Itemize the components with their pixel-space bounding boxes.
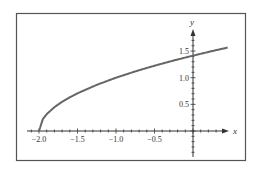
x-tick-label: −1.5 <box>70 135 85 144</box>
y-tick-label: 1.0 <box>179 74 189 83</box>
x-tick-label: −0.5 <box>147 135 162 144</box>
x-tick-label: −2.0 <box>32 135 47 144</box>
x-tick-label: −1.0 <box>109 135 124 144</box>
y-tick-label: 1.5 <box>179 47 189 56</box>
y-tick-label: 0.5 <box>179 100 189 109</box>
y-axis-label: y <box>189 17 194 27</box>
chart-frame <box>17 14 246 161</box>
x-axis-label: x <box>232 126 237 136</box>
chart-plot: −2.0−1.5−1.0−0.50.51.01.5 x y <box>0 0 261 174</box>
